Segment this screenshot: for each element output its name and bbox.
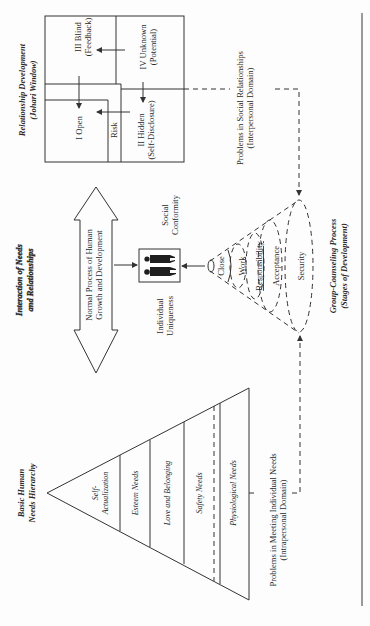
stage-work: Work [237,256,247,276]
quadrant-hidden-line2: (Self-Disclosure) [146,100,156,159]
level-safety: Safety Needs [195,472,204,513]
risk-label: Risk [109,121,119,137]
group-title-line1: Group-Counseling Process [328,218,338,313]
social-problems-line1: Problems in Social Relationships [235,50,245,165]
stage-responsibility: Responsibility [254,240,264,290]
stage-acceptance: Acceptance [271,246,281,286]
level-self-actualization-line2: Actualization [101,472,110,516]
maslow-section: Basic Human Needs Hierarchy Self- Actual… [16,336,300,600]
individual-uniqueness-line2: Uniqueness [165,295,175,336]
individual-problems-line2: (Intrapersonal Domain) [278,479,288,560]
people-icon [144,255,176,276]
interaction-section: Interaction of Needs and Relationships N… [14,187,205,373]
individual-problems-line1: Problems in Meeting Individual Needs [268,453,278,587]
group-title-line2: (Stages of Development) [339,223,349,309]
level-self-actualization-line1: Self- [91,485,100,500]
social-conformity-line1: Social [160,204,170,226]
quadrant-open: I Open [74,115,84,139]
johari-window-section: Relationship Development (Johari Window)… [17,16,299,195]
maslow-title-line2: Needs Hierarchy [27,463,37,523]
quadrant-unknown-line2: (Potential) [148,29,158,65]
group-counseling-section: Close Work Responsibility Acceptance Sec… [208,200,349,333]
growth-arrow-line1: Normal Process of Human [84,229,94,321]
quadrant-blind-line2: (Feedback) [83,18,93,57]
stage-close: Close [216,256,226,276]
johari-title-line1: Relationship Development [17,43,27,137]
social-problems-line2: (Interpersonal Domain) [245,67,255,148]
growth-arrow-line2: Growth and Development [94,230,104,320]
pyramid-outline [47,388,249,600]
needs-relationships-diagram: Relationship Development (Johari Window)… [0,0,370,626]
diagram-root: Relationship Development (Johari Window)… [0,0,370,626]
quadrant-blind-line1: III Blind [73,21,83,52]
interaction-title-line1: Interaction of Needs [14,243,24,316]
cone-tip [208,260,214,272]
individual-uniqueness-line1: Individual [155,298,165,334]
level-love-belonging: Love and Belonging [163,461,172,526]
level-physiological: Physiological Needs [229,460,238,527]
people-box [139,249,180,282]
quadrant-hidden-line1: II Hidden [136,113,146,147]
quadrant-unknown-line1: IV Unknown [138,24,148,70]
interaction-title-line2: and Relationships [25,248,35,312]
johari-title-line2: (Johari Window) [28,60,38,119]
social-conformity-line2: Conformity [170,194,180,235]
stage-security: Security [296,251,306,280]
maslow-title-line1: Basic Human [16,469,26,519]
level-esteem: Esteem Needs [131,471,140,517]
